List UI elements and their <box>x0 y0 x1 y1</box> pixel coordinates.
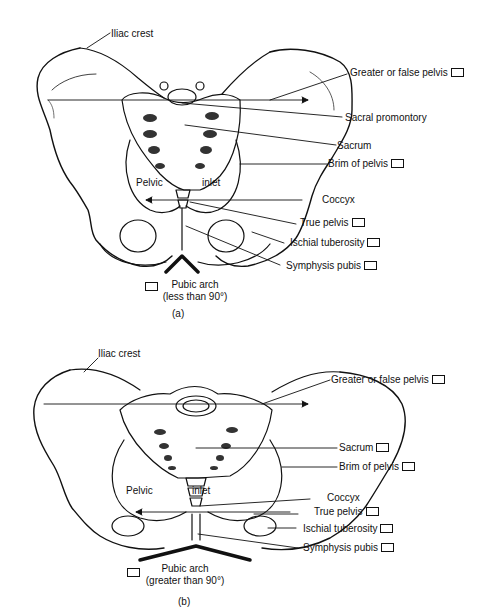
label-b-pubic-arch-text: Pubic arch <box>140 563 230 575</box>
label-a-inlet: inlet <box>202 177 220 189</box>
answer-box-b-symphysis-pubis[interactable] <box>381 543 394 552</box>
answer-box-a-symphysis-pubis[interactable] <box>364 261 377 270</box>
label-a-pubic-arch-note: (less than 90°) <box>160 291 230 303</box>
label-a-pubic-arch: Pubic arch (less than 90°) <box>160 279 230 303</box>
label-b-ischial-tuberosity: Ischial tuberosity <box>303 523 393 535</box>
answer-box-a-true-pelvis[interactable] <box>352 218 365 227</box>
label-a-symphysis-pubis: Symphysis pubis <box>286 260 377 272</box>
answer-box-b-brim-of-pelvis[interactable] <box>402 462 415 471</box>
label-b-true-pelvis: True pelvis <box>314 506 379 518</box>
label-b-ischial-tuberosity-text: Ischial tuberosity <box>303 523 377 534</box>
caption-a: (a) <box>172 308 184 320</box>
label-a-brim-of-pelvis-text: Brim of pelvis <box>328 158 388 169</box>
label-a-iliac-crest: Iliac crest <box>111 28 153 40</box>
label-a-true-pelvis-text: True pelvis <box>300 217 349 228</box>
answer-box-b-pubic-arch[interactable] <box>127 568 140 577</box>
label-a-greater-false-pelvis: Greater or false pelvis <box>350 67 464 79</box>
label-a-ischial-tuberosity: Ischial tuberosity <box>290 237 380 249</box>
label-b-coccyx: Coccyx <box>327 492 360 504</box>
label-a-brim-of-pelvis: Brim of pelvis <box>328 158 404 170</box>
label-a-pubic-arch-text: Pubic arch <box>160 279 230 291</box>
label-a-greater-false-pelvis-text: Greater or false pelvis <box>350 67 448 78</box>
answer-box-b-sacrum[interactable] <box>376 443 389 452</box>
pelvis-illustrations <box>0 0 485 610</box>
answer-box-b-greater-false-pelvis[interactable] <box>432 375 445 384</box>
label-b-iliac-crest: Iliac crest <box>98 348 140 360</box>
caption-b: (b) <box>178 596 190 608</box>
label-a-ischial-tuberosity-text: Ischial tuberosity <box>290 237 364 248</box>
label-a-sacral-promontory: Sacral promontory <box>345 112 427 124</box>
answer-box-a-pubic-arch[interactable] <box>145 282 158 291</box>
label-a-sacrum: Sacrum <box>337 140 371 152</box>
label-b-pubic-arch-note: (greater than 90°) <box>140 575 230 587</box>
label-b-symphysis-pubis: Symphysis pubis <box>303 542 394 554</box>
answer-box-b-true-pelvis[interactable] <box>366 507 379 516</box>
label-b-greater-false-pelvis-text: Greater or false pelvis <box>331 374 429 385</box>
answer-box-b-ischial-tuberosity[interactable] <box>380 524 393 533</box>
label-b-symphysis-pubis-text: Symphysis pubis <box>303 542 378 553</box>
answer-box-a-ischial-tuberosity[interactable] <box>367 238 380 247</box>
label-b-greater-false-pelvis: Greater or false pelvis <box>331 374 445 386</box>
label-b-inlet: inlet <box>192 485 210 497</box>
label-a-true-pelvis: True pelvis <box>300 217 365 229</box>
label-b-true-pelvis-text: True pelvis <box>314 506 363 517</box>
label-a-coccyx: Coccyx <box>322 194 355 206</box>
label-b-pubic-arch: Pubic arch (greater than 90°) <box>140 563 230 587</box>
answer-box-a-greater-false-pelvis[interactable] <box>451 68 464 77</box>
label-b-sacrum: Sacrum <box>339 442 389 454</box>
label-a-symphysis-pubis-text: Symphysis pubis <box>286 260 361 271</box>
label-a-pelvic: Pelvic <box>136 177 163 189</box>
label-b-pelvic: Pelvic <box>126 485 153 497</box>
answer-box-a-brim-of-pelvis[interactable] <box>391 159 404 168</box>
label-b-sacrum-text: Sacrum <box>339 442 373 453</box>
label-b-brim-of-pelvis: Brim of pelvis <box>339 461 415 473</box>
label-b-brim-of-pelvis-text: Brim of pelvis <box>339 461 399 472</box>
